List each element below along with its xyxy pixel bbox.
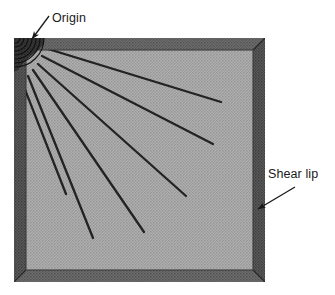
shear-lip-top xyxy=(14,38,265,50)
shear-lip-left xyxy=(14,38,26,282)
shear-lip-bottom xyxy=(14,270,265,282)
shear-lip-right xyxy=(253,38,265,282)
fracture-surface-figure: Origin Shear lip xyxy=(0,0,335,295)
shear-lip-label: Shear lip xyxy=(268,167,318,181)
specimen-body xyxy=(14,38,265,282)
origin-label: Origin xyxy=(52,11,86,25)
